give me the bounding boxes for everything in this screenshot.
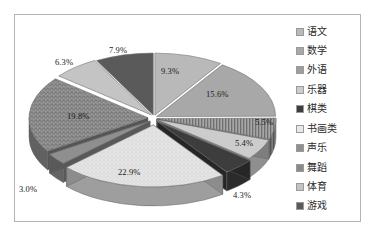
legend-label-4: 棋类 (307, 104, 327, 114)
legend-label-9: 游戏 (307, 201, 327, 211)
chart-legend: 语文 数学 外语 乐器 棋类 书画类 声乐 舞蹈 (296, 24, 360, 214)
legend-swatch-icon-0 (296, 28, 304, 36)
legend-item-7[interactable]: 舞蹈 (296, 160, 360, 175)
legend-swatch-icon-5 (296, 125, 304, 133)
legend-swatch-icon-9 (296, 202, 304, 210)
chart-frame: 9.3% 15.6% 5.5% 5.4% 4.3% 22.9% 3.0% 19.… (14, 14, 361, 222)
legend-item-2[interactable]: 外语 (296, 63, 360, 78)
legend-label-0: 语文 (307, 27, 327, 37)
pie-chart-plot-area: 9.3% 15.6% 5.5% 5.4% 4.3% 22.9% 3.0% 19.… (15, 15, 293, 221)
legend-item-8[interactable]: 体育 (296, 180, 360, 195)
slice-label-shuxue: 15.6% (206, 89, 228, 99)
legend-label-2: 外语 (307, 65, 327, 75)
slice-label-qilei: 4.3% (233, 190, 251, 200)
legend-swatch-icon-8 (296, 183, 304, 191)
slice-label-shuhua: 22.9% (118, 167, 140, 177)
slice-label-yueqi: 5.4% (235, 138, 253, 148)
slice-label-tiyu: 6.3% (55, 57, 73, 67)
legend-swatch-icon-1 (296, 47, 304, 55)
slice-label-shengyue: 3.0% (19, 184, 37, 194)
legend-label-5: 书画类 (307, 124, 337, 134)
legend-item-0[interactable]: 语文 (296, 24, 360, 39)
legend-item-3[interactable]: 乐器 (296, 82, 360, 97)
slice-label-youxi: 7.9% (109, 45, 127, 55)
legend-item-6[interactable]: 声乐 (296, 141, 360, 156)
legend-item-5[interactable]: 书画类 (296, 121, 360, 136)
legend-label-3: 乐器 (307, 85, 327, 95)
legend-item-1[interactable]: 数学 (296, 43, 360, 58)
legend-label-8: 体育 (307, 182, 327, 192)
slice-label-wudao: 19.8% (67, 111, 89, 121)
legend-swatch-icon-3 (296, 86, 304, 94)
legend-item-9[interactable]: 游戏 (296, 199, 360, 214)
slice-label-waiyu: 5.5% (255, 117, 273, 127)
legend-swatch-icon-2 (296, 66, 304, 74)
legend-label-7: 舞蹈 (307, 163, 327, 173)
legend-swatch-icon-4 (296, 105, 304, 113)
legend-swatch-icon-7 (296, 164, 304, 172)
slice-label-yuwen: 9.3% (161, 66, 179, 76)
pie-chart-svg (15, 15, 293, 221)
legend-label-1: 数学 (307, 46, 327, 56)
legend-item-4[interactable]: 棋类 (296, 102, 360, 117)
legend-label-6: 声乐 (307, 143, 327, 153)
legend-swatch-icon-6 (296, 144, 304, 152)
